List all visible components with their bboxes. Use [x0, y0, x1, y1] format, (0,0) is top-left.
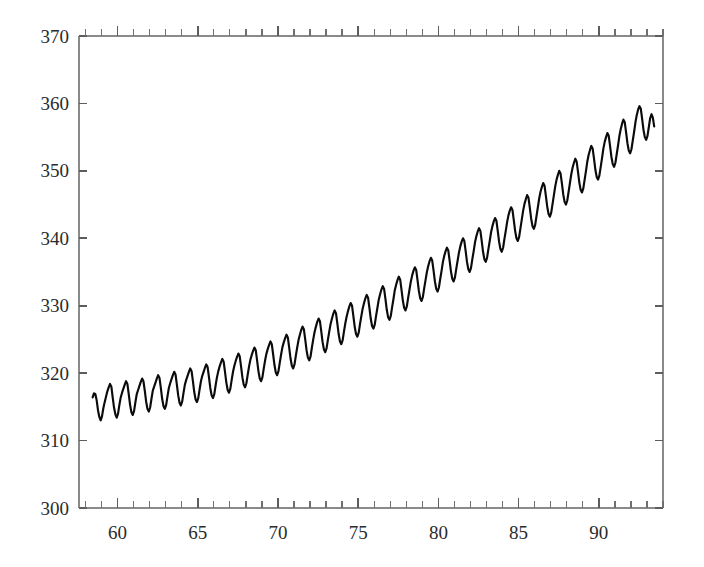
x-tick-label: 80 [429, 522, 448, 543]
x-tick-label: 70 [268, 522, 287, 543]
axis-ticks [79, 26, 663, 508]
y-tick-label: 340 [41, 228, 70, 249]
co2-data-line [93, 106, 655, 420]
chart-page: 30031032033034035036037060657075808590 [0, 0, 704, 567]
y-tick-label: 320 [41, 363, 70, 384]
x-tick-label: 90 [589, 522, 608, 543]
chart-axes [79, 36, 663, 508]
x-tick-label: 60 [108, 522, 127, 543]
y-tick-label: 370 [41, 26, 70, 47]
y-tick-label: 350 [41, 160, 70, 181]
co2-line-chart: 30031032033034035036037060657075808590 [0, 0, 704, 567]
x-tick-label: 65 [188, 522, 207, 543]
y-tick-label: 330 [41, 295, 70, 316]
y-tick-label: 360 [41, 93, 70, 114]
x-tick-label: 85 [509, 522, 528, 543]
x-tick-label: 75 [349, 522, 368, 543]
y-tick-label: 300 [41, 498, 70, 519]
y-tick-label: 310 [41, 430, 70, 451]
axis-tick-labels: 30031032033034035036037060657075808590 [41, 26, 609, 544]
